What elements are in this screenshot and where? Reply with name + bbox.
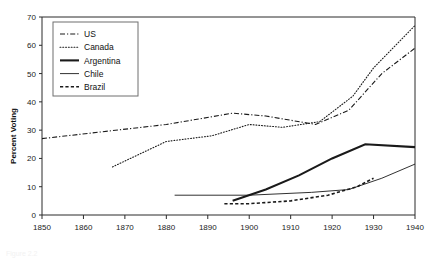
y-tick-label: 50 — [27, 70, 36, 79]
x-axis-ticks: 1850186018701880189019001910192019301940 — [33, 215, 424, 232]
figure-caption: Figure 2.2 — [6, 250, 38, 257]
x-tick-label: 1890 — [199, 223, 217, 232]
x-tick-label: 1930 — [365, 223, 383, 232]
y-tick-label: 70 — [27, 13, 36, 22]
series-line-chile — [175, 164, 415, 195]
figure-container: 010203040506070 185018601870188018901900… — [0, 0, 435, 258]
y-tick-label: 30 — [27, 126, 36, 135]
y-tick-label: 60 — [27, 41, 36, 50]
y-axis-title: Percent Voting — [9, 108, 18, 164]
x-tick-label: 1870 — [116, 223, 134, 232]
x-tick-label: 1900 — [240, 223, 258, 232]
y-tick-label: 10 — [27, 183, 36, 192]
series-line-canada — [112, 25, 415, 166]
x-tick-label: 1940 — [406, 223, 424, 232]
legend-label-us: US — [84, 29, 96, 39]
x-tick-label: 1850 — [33, 223, 51, 232]
y-axis-ticks: 010203040506070 — [27, 13, 42, 220]
voting-line-chart: 010203040506070 185018601870188018901900… — [0, 0, 435, 258]
x-tick-label: 1880 — [157, 223, 175, 232]
y-tick-label: 40 — [27, 98, 36, 107]
legend-label-brazil: Brazil — [84, 82, 105, 92]
legend-label-chile: Chile — [84, 69, 104, 79]
legend-label-canada: Canada — [84, 42, 114, 52]
series-line-brazil — [224, 178, 373, 203]
x-tick-label: 1910 — [282, 223, 300, 232]
chart-legend: USCanadaArgentinaChileBrazil — [53, 22, 138, 96]
x-tick-label: 1860 — [75, 223, 93, 232]
legend-label-argentina: Argentina — [84, 56, 121, 66]
x-tick-label: 1920 — [323, 223, 341, 232]
series-line-argentina — [233, 144, 415, 201]
y-tick-label: 20 — [27, 154, 36, 163]
y-tick-label: 0 — [32, 211, 37, 220]
